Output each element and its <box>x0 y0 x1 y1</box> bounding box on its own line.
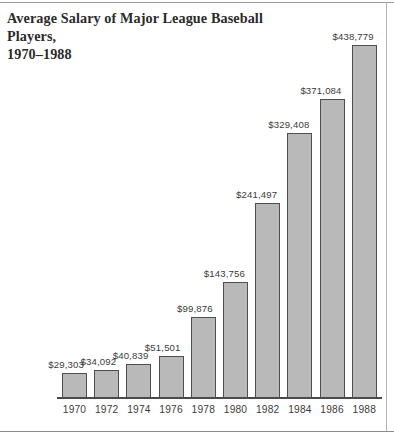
plot-area: $29,303$34,092$40,839$51,501$99,876$143,… <box>0 0 394 439</box>
x-tick-label: 1988 <box>348 404 380 415</box>
bar <box>159 356 184 397</box>
bar <box>62 373 87 397</box>
x-tick-label: 1970 <box>59 404 91 415</box>
bar <box>94 370 119 397</box>
bar <box>287 133 312 397</box>
bar <box>191 317 216 397</box>
x-tick-label: 1982 <box>252 404 284 415</box>
x-tick-label: 1980 <box>220 404 252 415</box>
x-tick-label: 1976 <box>155 404 187 415</box>
bar-value-label: $329,408 <box>246 119 309 130</box>
x-tick-label: 1978 <box>187 404 219 415</box>
x-axis-line <box>57 397 382 399</box>
x-tick-label: 1986 <box>316 404 348 415</box>
bar-value-label: $143,756 <box>182 268 245 279</box>
x-tick-label: 1984 <box>284 404 316 415</box>
bar <box>320 99 345 397</box>
bar <box>255 203 280 397</box>
x-tick-label: 1974 <box>123 404 155 415</box>
bar-value-label: $241,497 <box>214 189 277 200</box>
bar <box>126 364 151 397</box>
x-tick-label: 1972 <box>91 404 123 415</box>
bar-value-label: $438,779 <box>311 31 374 42</box>
bar-value-label: $99,876 <box>150 303 213 314</box>
chart-figure: Average Salary of Major League Baseball … <box>0 0 394 439</box>
bar <box>223 282 248 397</box>
bar-value-label: $51,501 <box>118 342 181 353</box>
bar <box>352 45 377 397</box>
bar-value-label: $371,084 <box>279 85 342 96</box>
